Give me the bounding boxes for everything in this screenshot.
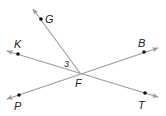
label-k: K (14, 38, 22, 50)
point-b (142, 50, 146, 54)
line-pb (7, 48, 158, 99)
label-g: G (45, 13, 54, 25)
angle-3-label: 3 (64, 59, 69, 69)
label-f: F (75, 77, 83, 89)
geometry-diagram: G K B P T F 3 (0, 0, 166, 116)
label-p: P (14, 100, 22, 112)
point-k (16, 52, 20, 56)
point-t (143, 91, 147, 95)
point-g (39, 17, 43, 21)
label-b: B (138, 37, 145, 49)
label-t: T (138, 99, 146, 111)
point-p (17, 93, 21, 97)
